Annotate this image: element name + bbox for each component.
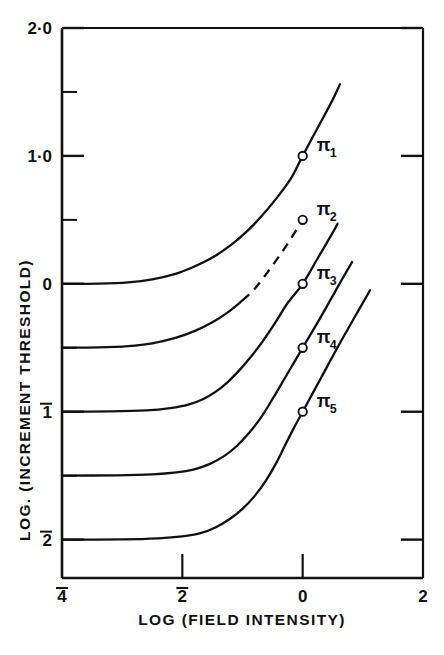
curve-label-symbol-4: π — [317, 327, 331, 347]
x-tick-label: 4 — [57, 587, 67, 606]
curve-label-symbol-3: π — [317, 263, 331, 283]
x-tick-label: 2 — [418, 587, 427, 606]
marker-5 — [298, 408, 306, 416]
x-tick-label: 2 — [178, 587, 187, 606]
curve-label-symbol-2: π — [317, 199, 331, 219]
curve-label-symbol-5: π — [317, 391, 331, 411]
increment-threshold-chart: 2·01·00124202 π1π2π3π4π5 LOG (FIELD INTE… — [0, 0, 444, 655]
y-tick-label: 1·0 — [27, 147, 52, 166]
y-axis-title: LOG. (INCREMENT THRESHOLD) — [16, 259, 33, 541]
marker-1 — [298, 152, 306, 160]
y-tick-label: 0 — [43, 275, 52, 294]
marker-3 — [298, 280, 306, 288]
curve-label-subscript-2: 2 — [330, 210, 337, 224]
y-tick-label: 2 — [43, 531, 52, 550]
curve-label-subscript-1: 1 — [330, 146, 337, 160]
x-tick-label: 0 — [298, 587, 307, 606]
curve-label-symbol-1: π — [317, 135, 331, 155]
marker-2 — [298, 216, 306, 224]
curve-label-subscript-5: 5 — [330, 402, 337, 416]
curve-label-subscript-4: 4 — [330, 338, 337, 352]
chart-svg: 2·01·00124202 π1π2π3π4π5 LOG (FIELD INTE… — [0, 0, 444, 655]
x-axis-title: LOG (FIELD INTENSITY) — [138, 611, 346, 628]
y-tick-label: 1 — [43, 403, 52, 422]
chart-background — [0, 0, 444, 655]
marker-4 — [298, 344, 306, 352]
curve-label-subscript-3: 3 — [330, 274, 337, 288]
y-tick-label: 2·0 — [27, 19, 52, 38]
